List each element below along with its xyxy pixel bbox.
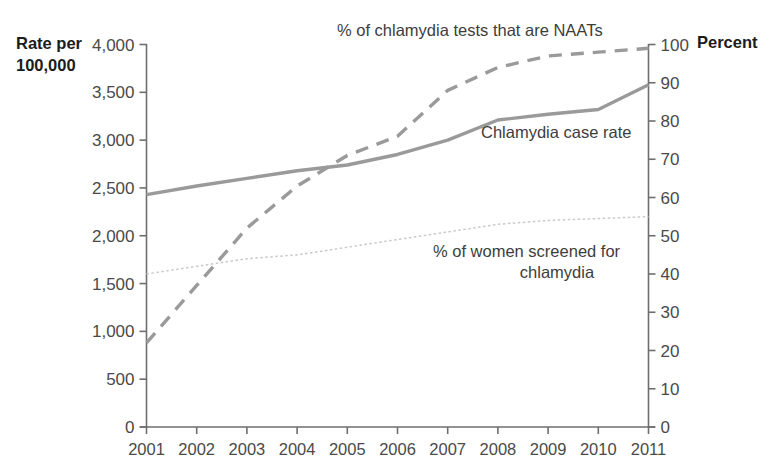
left-tick-label: 500 bbox=[106, 370, 134, 389]
x-tick-label: 2006 bbox=[379, 440, 416, 458]
right-tick-label: 0 bbox=[661, 418, 670, 437]
left-tick-label: 4,000 bbox=[92, 36, 135, 55]
right-tick-label: 70 bbox=[661, 150, 680, 169]
x-tick-label: 2008 bbox=[480, 440, 517, 458]
naats-label: % of chlamydia tests that are NAATs bbox=[337, 21, 603, 39]
x-axis-ticks: 2001200220032004200520062007200820092010… bbox=[128, 427, 666, 458]
x-tick-label: 2009 bbox=[530, 440, 567, 458]
left-tick-label: 2,000 bbox=[92, 227, 135, 246]
series-lines bbox=[147, 48, 649, 343]
left-tick-label: 3,000 bbox=[92, 131, 135, 150]
right-tick-label: 60 bbox=[661, 189, 680, 208]
screened-label-line2: chlamydia bbox=[520, 263, 595, 281]
right-axis-title: Percent bbox=[697, 33, 758, 51]
right-tick-label: 80 bbox=[661, 112, 680, 131]
right-tick-label: 30 bbox=[661, 303, 680, 322]
x-tick-label: 2007 bbox=[429, 440, 466, 458]
x-tick-label: 2004 bbox=[279, 440, 316, 458]
right-tick-label: 10 bbox=[661, 380, 680, 399]
left-tick-label: 0 bbox=[125, 418, 134, 437]
right-tick-label: 40 bbox=[661, 265, 680, 284]
left-axis-ticks: 05001,0001,5002,0002,5003,0003,5004,000 bbox=[92, 36, 147, 438]
x-tick-label: 2001 bbox=[128, 440, 165, 458]
x-tick-label: 2011 bbox=[631, 440, 666, 458]
right-tick-label: 100 bbox=[661, 36, 689, 55]
left-axis-title-line2: 100,000 bbox=[16, 56, 76, 74]
x-tick-label: 2002 bbox=[178, 440, 215, 458]
right-tick-label: 90 bbox=[661, 74, 680, 93]
series-line bbox=[147, 48, 649, 343]
x-tick-label: 2010 bbox=[580, 440, 617, 458]
left-axis-title-line1: Rate per bbox=[16, 34, 83, 52]
left-tick-label: 1,000 bbox=[92, 322, 135, 341]
chart-container: Rate per 100,000 Percent 05001,0001,5002… bbox=[0, 0, 776, 476]
right-tick-label: 50 bbox=[661, 227, 680, 246]
line-chart: Rate per 100,000 Percent 05001,0001,5002… bbox=[0, 0, 776, 476]
left-tick-label: 1,500 bbox=[92, 275, 135, 294]
case-rate-label: Chlamydia case rate bbox=[481, 123, 631, 141]
right-tick-label: 20 bbox=[661, 342, 680, 361]
screened-label-line1: % of women screened for bbox=[433, 242, 621, 260]
right-axis-ticks: 0102030405060708090100 bbox=[649, 36, 689, 438]
x-tick-label: 2005 bbox=[329, 440, 366, 458]
left-tick-label: 2,500 bbox=[92, 179, 135, 198]
x-tick-label: 2003 bbox=[229, 440, 266, 458]
left-tick-label: 3,500 bbox=[92, 83, 135, 102]
